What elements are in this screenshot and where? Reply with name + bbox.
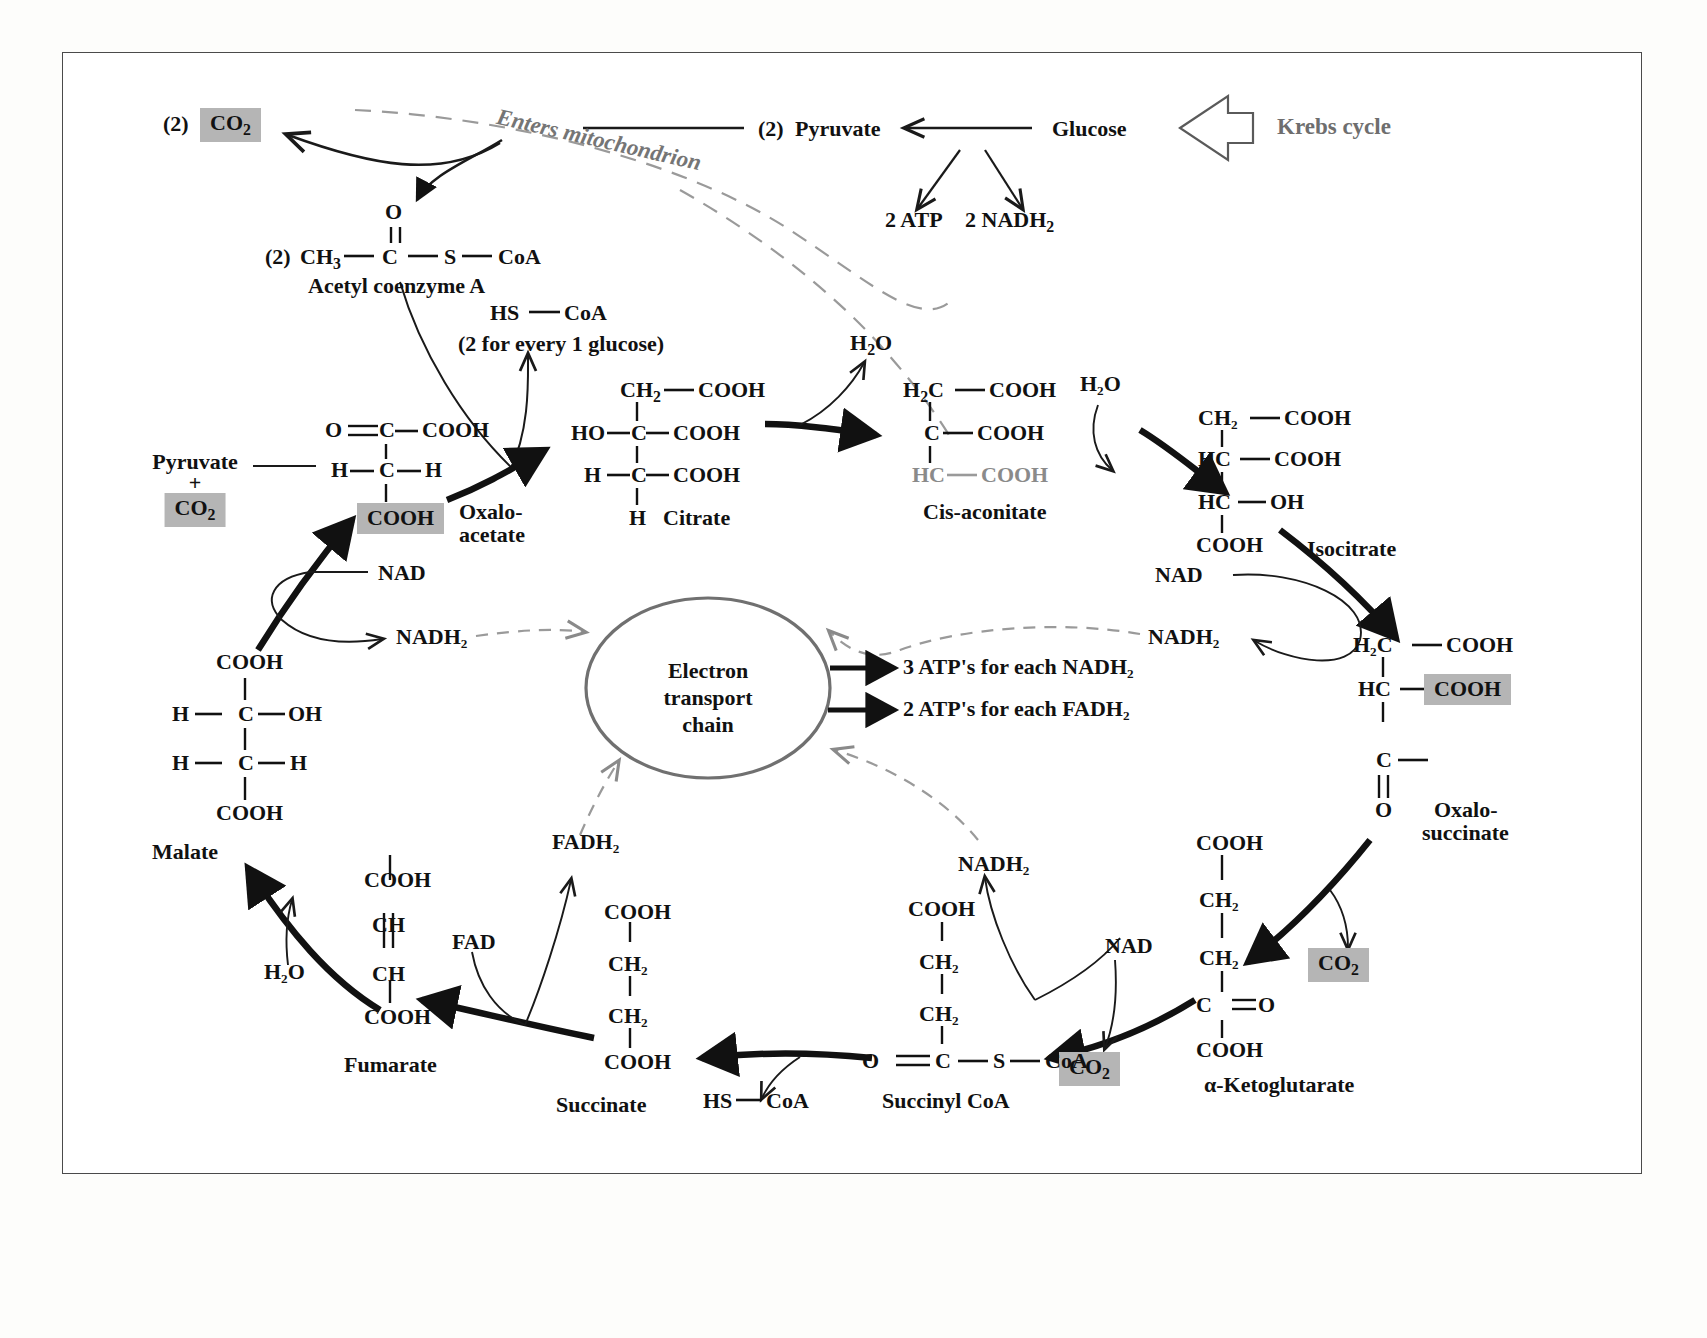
oxa-cooh-top: COOH: [422, 418, 489, 442]
succinyl-coa-name: Succinyl CoA: [882, 1089, 1010, 1113]
suc-cooh-bottom: COOH: [604, 1050, 671, 1074]
hscoa-hs-label: HS: [490, 301, 519, 325]
oxa-input-co2-base: CO: [175, 495, 208, 520]
mal-oh-atom: OH: [288, 702, 322, 726]
oxa-o-atom: O: [325, 418, 342, 442]
acetyl-co2-sub: 2: [243, 121, 251, 138]
mal-cooh-bottom: COOH: [216, 801, 283, 825]
iso-hc-2: HC: [1198, 490, 1231, 514]
cit-c2-atom: C: [631, 463, 647, 487]
akg-ch2-1: CH₂: [1199, 888, 1239, 912]
acetyl-ch3-sub: 3: [333, 255, 341, 272]
iso-oh-atom: OH: [1270, 490, 1304, 514]
malate-name: Malate: [152, 840, 218, 864]
mal-h-left-1: H: [172, 702, 189, 726]
malate-water-in-label: H₂O: [264, 960, 305, 984]
scoa-o-atom: O: [862, 1049, 879, 1073]
oxa-cooh-bottom: COOH: [357, 503, 444, 534]
acetyl-coa-atom: CoA: [498, 245, 541, 269]
iso-cooh-2: COOH: [1274, 447, 1341, 471]
etc-nadh-atp-count: 3 ATP's: [903, 654, 975, 679]
cis-cooh-1: COOH: [989, 378, 1056, 402]
fum-cooh-bottom: COOH: [364, 1005, 431, 1029]
fum-ch-1: CH: [372, 913, 405, 937]
citrate-name: Citrate: [663, 506, 730, 530]
fadh2-label: FADH₂: [552, 830, 619, 854]
succinate-name: Succinate: [556, 1093, 646, 1117]
figure-frame: [62, 52, 1642, 1174]
oxaloacetate-name-line2: acetate: [459, 523, 525, 547]
oxs-h2c-atom: H₂C: [1353, 633, 1393, 657]
fum-cooh-top: COOH: [364, 868, 431, 892]
suc-ch2-1: CH₂: [608, 952, 648, 976]
nad-label-left: NAD: [378, 561, 426, 585]
cis-h2c-sub: 2: [920, 388, 928, 405]
cit-ch2-base: CH: [620, 377, 653, 402]
acetyl-ch3-base: CH: [300, 244, 333, 269]
scoa-coa-atom: CoA: [1045, 1049, 1088, 1073]
acetyl-c-atom: C: [382, 245, 398, 269]
scoa-ch2-1: CH₂: [919, 950, 959, 974]
hscoa-bottom-coa: CoA: [766, 1089, 809, 1113]
oxs-cooh-highlight: COOH: [1424, 674, 1511, 705]
scoa-c-atom: C: [935, 1049, 951, 1073]
etc-fadh-atp-rest: for each FADH₂: [981, 696, 1130, 721]
acetyl-coenzyme-a-name: Acetyl coenzyme A: [308, 274, 485, 298]
akg-o-atom: O: [1258, 993, 1275, 1017]
akg-cooh-top: COOH: [1196, 831, 1263, 855]
akg-c-atom: C: [1196, 993, 1212, 1017]
nadh2-label-right: NADH₂: [1148, 625, 1219, 649]
iso-hc-1: HC: [1198, 447, 1231, 471]
oxs-hc-atom: HC: [1358, 677, 1391, 701]
pyruvate-count-label: (2): [758, 117, 784, 141]
cit-ch2-sub: 2: [653, 388, 661, 405]
cit-cooh-1: COOH: [698, 378, 765, 402]
nadh2-label-bottom: NADH₂: [958, 852, 1029, 876]
oxalosuccinate-name-line2: succinate: [1422, 821, 1509, 845]
cit-ch2-atom: CH2: [620, 378, 661, 405]
cis-h2c-base: H: [903, 377, 920, 402]
oxaloacetate-name-line1: Oxalo-: [459, 500, 523, 524]
scoa-s-atom: S: [993, 1049, 1005, 1073]
nad-label-bottom: NAD: [1105, 934, 1153, 958]
water-out-tail: O: [875, 330, 892, 355]
hscoa-note: (2 for every 1 glucose): [458, 332, 664, 356]
oxs-o-atom: O: [1375, 798, 1392, 822]
scoa-ch2-2: CH₂: [919, 1002, 959, 1026]
oxaloacetate-input-plus: +: [189, 471, 202, 495]
oxs-c-atom: C: [1376, 748, 1392, 772]
mal-cooh-top: COOH: [216, 650, 283, 674]
cis-cooh-2: COOH: [977, 421, 1044, 445]
cit-h-bottom: H: [629, 506, 646, 530]
pyruvate-label: Pyruvate: [795, 117, 881, 141]
isocitrate-water-in-label: H₂O: [1080, 372, 1121, 396]
nadh2-label-left: NADH₂: [396, 625, 467, 649]
etc-label-line2: transport: [663, 685, 752, 712]
scoa-cooh-top: COOH: [908, 897, 975, 921]
etc-label-line3: chain: [663, 712, 752, 739]
oxa-input-co2-sub: 2: [208, 506, 216, 523]
cis-c-atom: C: [924, 421, 940, 445]
glucose-label: Glucose: [1052, 117, 1127, 141]
co2-bottom-sub: 2: [1102, 1065, 1110, 1082]
acetyl-co2-count: (2): [163, 112, 189, 136]
etc-nadh-atp-rest: for each NADH₂: [981, 654, 1134, 679]
cit-ho-atom: HO: [571, 421, 605, 445]
cit-cooh-3: COOH: [673, 463, 740, 487]
nadh-yield-sub: 2: [1046, 218, 1054, 235]
oxa-c1-atom: C: [379, 418, 395, 442]
nadh-yield-base: 2 NADH: [965, 207, 1046, 232]
nad-label-right: NAD: [1155, 563, 1203, 587]
co2-right-sub: 2: [1351, 961, 1359, 978]
isocitrate-name: Isocitrate: [1307, 537, 1396, 561]
hscoa-bottom-hs: HS: [703, 1089, 732, 1113]
etc-nadh-atp-line: 3 ATP's for each NADH₂: [903, 655, 1134, 679]
krebs-cycle-title: Krebs cycle: [1277, 114, 1391, 139]
akg-cooh-bottom: COOH: [1196, 1038, 1263, 1062]
oxa-cooh-bottom-badge: COOH: [357, 503, 444, 534]
atp-yield-label: 2 ATP: [885, 208, 943, 232]
acetyl-ch3-atom: CH3: [300, 245, 341, 272]
cit-cooh-2: COOH: [673, 421, 740, 445]
oxs-cooh-badge: COOH: [1424, 674, 1511, 705]
nadh-yield-label: 2 NADH2: [965, 208, 1054, 235]
